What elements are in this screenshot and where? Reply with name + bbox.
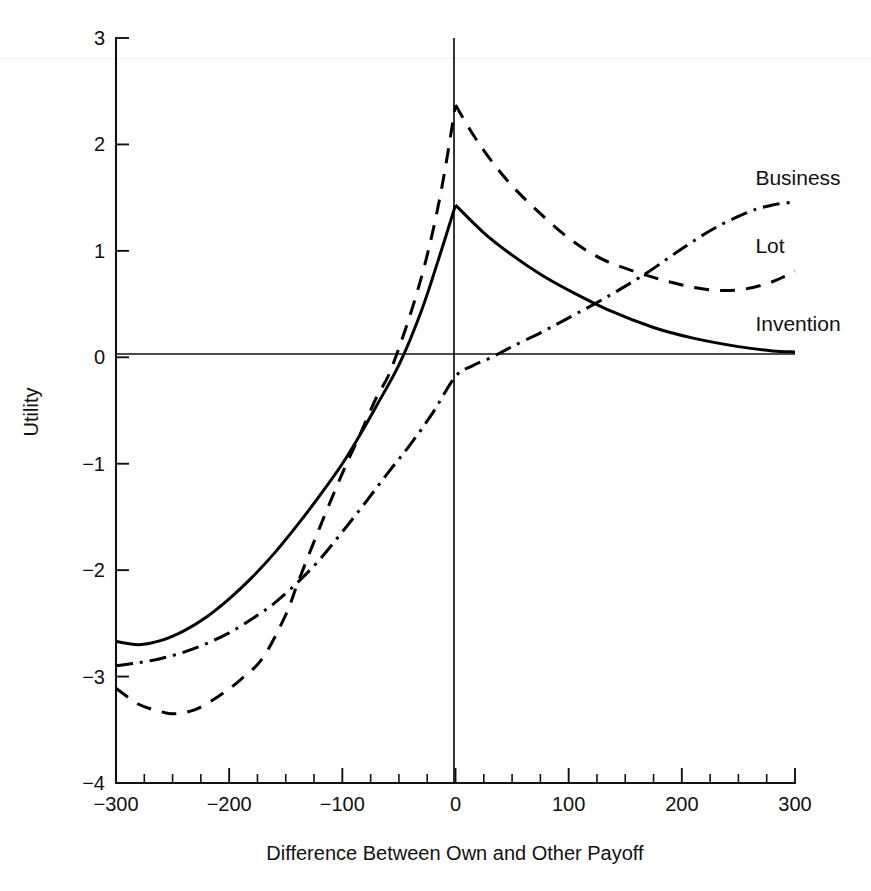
y-tick-label--4: −4 bbox=[82, 772, 105, 794]
series-annotations: BusinessLotInvention bbox=[755, 166, 840, 335]
axis-lines bbox=[116, 38, 795, 783]
x-tick-label-100: 100 bbox=[552, 793, 585, 815]
x-tick-label-300: 300 bbox=[778, 793, 811, 815]
y-tick-label--2: −2 bbox=[82, 559, 105, 581]
x-tick-label-0: 0 bbox=[450, 793, 461, 815]
series-curve-invention-seg1 bbox=[456, 205, 796, 352]
y-tick-label-1: 1 bbox=[94, 240, 105, 262]
x-axis-tick-labels: −300−200−1000100200300 bbox=[93, 793, 811, 815]
series-label-business: Business bbox=[755, 166, 840, 189]
x-tick-label--300: −300 bbox=[93, 793, 138, 815]
x-tick-label--100: −100 bbox=[320, 793, 365, 815]
y-tick-label-3: 3 bbox=[94, 27, 105, 49]
x-axis-ticks bbox=[116, 768, 795, 783]
y-axis-tick-labels: 3210−1−2−3−4 bbox=[82, 27, 105, 794]
series-curve-invention-seg0 bbox=[116, 205, 456, 645]
series-curve-lot-seg1 bbox=[456, 105, 796, 291]
series-label-lot: Lot bbox=[755, 234, 784, 257]
series-curve-business bbox=[116, 202, 795, 666]
y-tick-label-0: 0 bbox=[94, 346, 105, 368]
y-tick-label--1: −1 bbox=[82, 453, 105, 475]
series-label-invention: Invention bbox=[755, 312, 840, 335]
y-axis-title: Utility bbox=[20, 388, 42, 437]
x-axis-title: Difference Between Own and Other Payoff bbox=[266, 842, 644, 864]
y-tick-label--3: −3 bbox=[82, 666, 105, 688]
y-tick-label-2: 2 bbox=[94, 133, 105, 155]
x-tick-label--200: −200 bbox=[207, 793, 252, 815]
series-curve-lot-seg0 bbox=[116, 105, 456, 714]
series-curves bbox=[116, 105, 795, 714]
chart-figure: 3210−1−2−3−4 −300−200−1000100200300 Busi… bbox=[0, 0, 871, 891]
y-axis-ticks bbox=[116, 38, 129, 783]
utility-line-chart: 3210−1−2−3−4 −300−200−1000100200300 Busi… bbox=[0, 0, 871, 891]
x-tick-label-200: 200 bbox=[665, 793, 698, 815]
